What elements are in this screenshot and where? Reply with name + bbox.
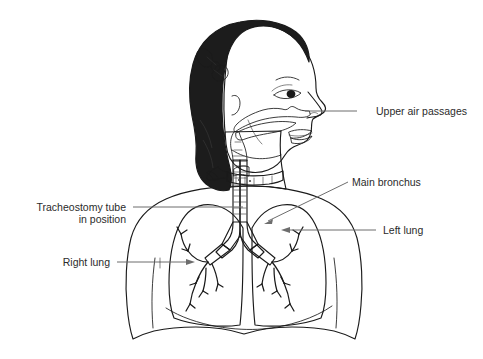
left-shoulder-crease [152,258,155,328]
label-upper-air-passages: Upper air passages [376,105,467,117]
tube-hub-dot-2 [249,180,251,182]
label-main-bronchus: Main bronchus [352,176,421,188]
nose [307,92,322,118]
label-right-lung: Right lung [63,256,110,268]
head-group [190,20,326,190]
diaphragm-curve [166,306,332,329]
left-bronchial-branches [257,227,303,311]
eye [272,85,301,99]
label-left-lung: Left lung [383,224,423,236]
arrowhead-left-lung [281,227,290,233]
pharynx [231,132,247,161]
tube-hub-dot-1 [238,179,240,181]
eyebrow [276,77,299,80]
right-bronchial-branches [177,227,223,311]
label-tracheostomy-tube-line2: in position [79,213,126,225]
ear [232,95,240,115]
left-lung [252,205,326,326]
hair [190,20,310,190]
anatomy-figure: Upper air passages Main bronchus Left lu… [0,0,483,359]
anatomy-diagram-svg: Upper air passages Main bronchus Left lu… [0,0,483,359]
nostril [310,113,318,115]
label-tracheostomy-tube-line1: Tracheostomy tube [37,201,127,213]
right-shoulder-crease [334,258,337,328]
bronchial-tree [177,227,303,311]
arrowhead-right-lung [186,259,195,265]
jaw-shadow [232,150,281,159]
upper-airway-group [231,107,310,162]
lips [289,130,312,144]
